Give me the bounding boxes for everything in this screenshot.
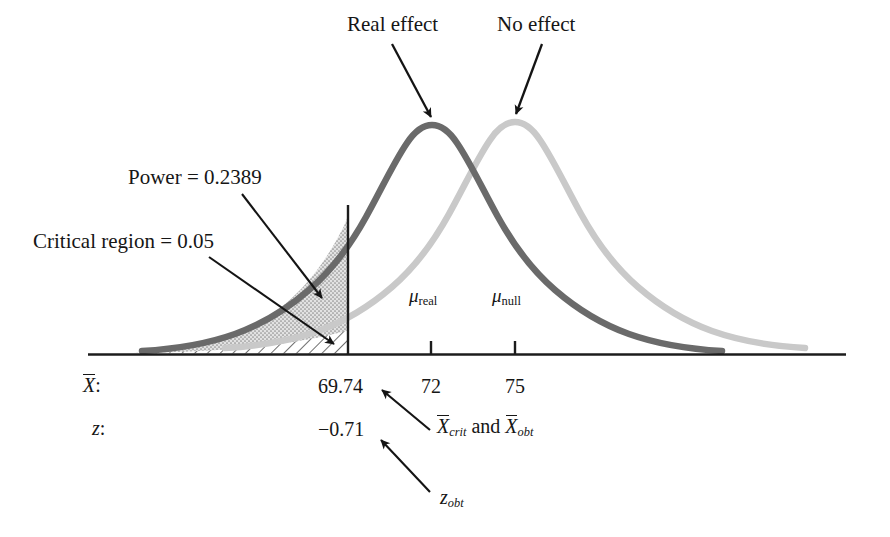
mu-real-subscript: real — [419, 294, 438, 308]
zobt-subscript: obt — [448, 496, 464, 510]
xbar-symbol: X — [83, 375, 95, 395]
annotation-conjunction: and — [466, 415, 505, 437]
xcrit-and-xobt-annotation: Xcrit and Xobt — [437, 416, 533, 439]
mu-null-subscript: null — [502, 294, 522, 308]
xcrit-subscript: crit — [449, 425, 466, 439]
real-effect-label: Real effect — [347, 14, 438, 35]
z-value-obtained: −0.71 — [318, 419, 364, 439]
power-callout-arrow — [242, 194, 322, 298]
power-callout-label: Power = 0.2389 — [128, 167, 262, 188]
no-effect-label: No effect — [497, 14, 575, 35]
xobt-symbol: X — [505, 416, 517, 436]
z-colon: : — [100, 417, 106, 439]
diagram-graphics — [0, 0, 890, 537]
z-symbol: z — [92, 417, 100, 439]
xcrit-symbol: X — [437, 416, 449, 436]
zobt-annotation: zobt — [440, 487, 464, 510]
xobt-subscript: obt — [518, 425, 534, 439]
xbar-value-mu-null: 75 — [505, 376, 525, 396]
xbar-value-critical: 69.74 — [318, 376, 363, 396]
xbar-colon: : — [95, 374, 101, 396]
zobt-symbol: z — [440, 486, 448, 508]
power-diagram-figure: Real effect No effect Power = 0.2389 Cri… — [0, 0, 890, 537]
mu-null-label: μnull — [492, 286, 521, 308]
xbar-value-mu-real: 72 — [421, 376, 441, 396]
zobt-annotation-arrow — [381, 440, 430, 492]
critical-region-callout-label: Critical region = 0.05 — [33, 231, 214, 252]
mu-null-symbol: μ — [492, 285, 502, 306]
z-row-key: z: — [92, 418, 105, 438]
mu-real-label: μreal — [409, 286, 437, 308]
xbar-row-key: X: — [83, 375, 101, 395]
real-effect-arrow — [392, 44, 431, 117]
no-effect-arrow — [516, 44, 542, 114]
mu-real-symbol: μ — [409, 285, 419, 306]
